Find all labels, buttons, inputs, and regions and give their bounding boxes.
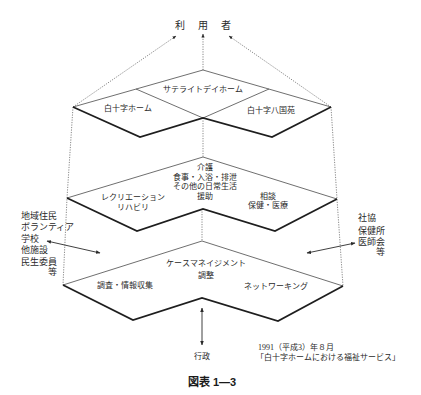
left-group-item: ボランティア [21, 222, 74, 232]
left-connector [63, 107, 73, 285]
source-note: 1991（平成3）年８月 「白十字ホームにおける福祉サービス」 [256, 342, 400, 362]
left-group-arrow [47, 241, 100, 253]
administration-group: 行政 [194, 308, 210, 361]
source-date: 1991（平成3）年８月 [258, 342, 334, 352]
tier2-center-line: 介護 [197, 162, 213, 172]
tier2-center-line: その他の日常生活 [173, 181, 237, 191]
tier1-right-label: 白十字八国苑 [247, 105, 295, 115]
right-group-item: 等 [376, 246, 385, 257]
tier1-left-label: 白十字ホーム [104, 103, 152, 113]
right-group-item: 医師会 [358, 236, 385, 247]
left-stakeholder-group: 地域住民 ボランティア 学校 他施設 民生委員 等 [21, 210, 100, 277]
tier3-shape: ケースマネイジメント 調整 調査・情報収集 ネットワーキング [63, 241, 343, 321]
tier2-center-line: 援助 [197, 191, 213, 201]
tier2-left-line: レクリエーション [101, 193, 165, 202]
left-group-item: 地域住民 [21, 210, 57, 221]
figure-caption: 図表 1—3 [188, 375, 236, 388]
administration-label: 行政 [194, 351, 210, 361]
source-title: 「白十字ホームにおける福祉サービス」 [256, 352, 400, 362]
arrow-right-to-users [229, 36, 331, 107]
left-group-item: 民生委員 [21, 256, 57, 267]
tier3-right-label: ネットワーキング [244, 281, 308, 291]
service-structure-diagram: 利用者 サテライトデイホーム 白十字ホーム 白十字八国苑 介護 食事・入浴・排泄… [0, 0, 421, 395]
left-group-item: 学校 [21, 233, 39, 244]
tier2-left-line: リハビリ [117, 203, 149, 212]
right-connector [331, 107, 343, 286]
right-group-item: 社協 [358, 212, 376, 223]
tier3-left-label: 調査・情報収集 [97, 280, 153, 290]
tier3-top-line: ケースマネイジメント [166, 259, 246, 268]
tier1-shape: サテライトデイホーム 白十字ホーム 白十字八国苑 [73, 70, 331, 137]
tier2-center-line: 食事・入浴・排泄 [173, 172, 237, 182]
right-group-item: 保健所 [358, 225, 385, 236]
right-group-arrow [307, 243, 355, 253]
left-group-item: 等 [48, 266, 57, 277]
tier1-satellite-label: サテライトデイホーム [163, 84, 243, 94]
arrow-left-to-users [73, 36, 176, 107]
tier3-top-line: 調整 [198, 270, 214, 280]
left-group-item: 他施設 [21, 244, 48, 255]
right-stakeholder-group: 社協 保健所 医師会 等 [307, 212, 385, 257]
users-label: 利用者 [175, 20, 244, 31]
tier2-right-line: 保健・医療 [248, 200, 288, 210]
tier2-right-line: 相談 [260, 191, 276, 201]
